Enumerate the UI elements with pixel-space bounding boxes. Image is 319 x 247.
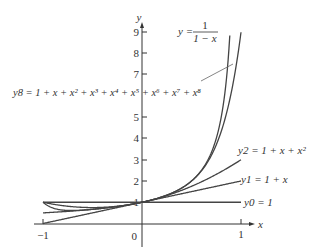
xtick-1: 1 <box>238 228 244 240</box>
ytick-4: 4 <box>134 132 140 144</box>
y-axis-label: y <box>136 11 142 23</box>
y8-leader-line <box>201 64 233 81</box>
ytick-8: 8 <box>134 47 140 59</box>
ytick-7: 7 <box>134 68 140 80</box>
axes <box>34 26 250 247</box>
ytick-3: 3 <box>134 154 140 166</box>
plot-svg: 1 2 3 4 5 7 8 9 0 −1 1 x y y = 1 1 − x y… <box>0 0 319 247</box>
x-axis-label: x <box>257 218 263 230</box>
y-ticks <box>142 32 147 202</box>
ytick-5: 5 <box>134 111 140 123</box>
f-y-label: y = <box>177 25 193 37</box>
y0-label: y0 = 1 <box>243 196 273 208</box>
ytick-9: 9 <box>134 26 140 38</box>
xtick-neg1: −1 <box>37 229 49 241</box>
x-axis-arrow-icon <box>249 222 255 226</box>
y2-label: y2 = 1 + x + x² <box>237 144 306 156</box>
y1-label: y1 = 1 + x <box>240 173 288 185</box>
f-denominator: 1 − x <box>193 32 216 44</box>
chart-figure: 1 2 3 4 5 7 8 9 0 −1 1 x y y = 1 1 − x y… <box>0 0 319 247</box>
y8-label: y8 = 1 + x + x² + x³ + x⁴ + x⁵ + x⁶ + x⁷… <box>12 87 201 98</box>
ytick-2: 2 <box>134 175 140 187</box>
f-numerator: 1 <box>202 19 208 31</box>
origin-label: 0 <box>132 230 138 242</box>
